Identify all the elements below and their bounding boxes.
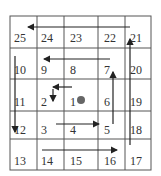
cell-label: 20: [130, 63, 142, 77]
cell-label: 15: [70, 154, 82, 168]
spiral-grid-diagram: 2524232221109872011216191234518131415161…: [0, 0, 161, 176]
cell-label: 17: [130, 154, 142, 168]
cell-label: 12: [14, 123, 26, 137]
cell-label: 1: [70, 95, 76, 109]
cell-label: 6: [104, 95, 110, 109]
center-dot: [77, 96, 85, 104]
cell-label: 11: [14, 95, 26, 109]
cell-label: 2: [41, 95, 47, 109]
cell-label: 19: [130, 95, 142, 109]
cell-label: 8: [70, 63, 76, 77]
cell-label: 23: [70, 31, 82, 45]
cell-label: 21: [130, 31, 142, 45]
cell-label: 10: [14, 63, 26, 77]
cell-label: 16: [104, 154, 116, 168]
cell-label: 18: [130, 123, 142, 137]
cell-label: 13: [14, 154, 26, 168]
cell-label: 25: [14, 31, 26, 45]
cell-label: 4: [70, 123, 76, 137]
cell-label: 22: [104, 31, 116, 45]
cell-label: 5: [104, 123, 110, 137]
cell-label: 9: [41, 63, 47, 77]
cell-label: 7: [104, 63, 110, 77]
cell-label: 3: [41, 123, 47, 137]
cell-label: 14: [41, 154, 53, 168]
cell-label: 24: [41, 31, 53, 45]
